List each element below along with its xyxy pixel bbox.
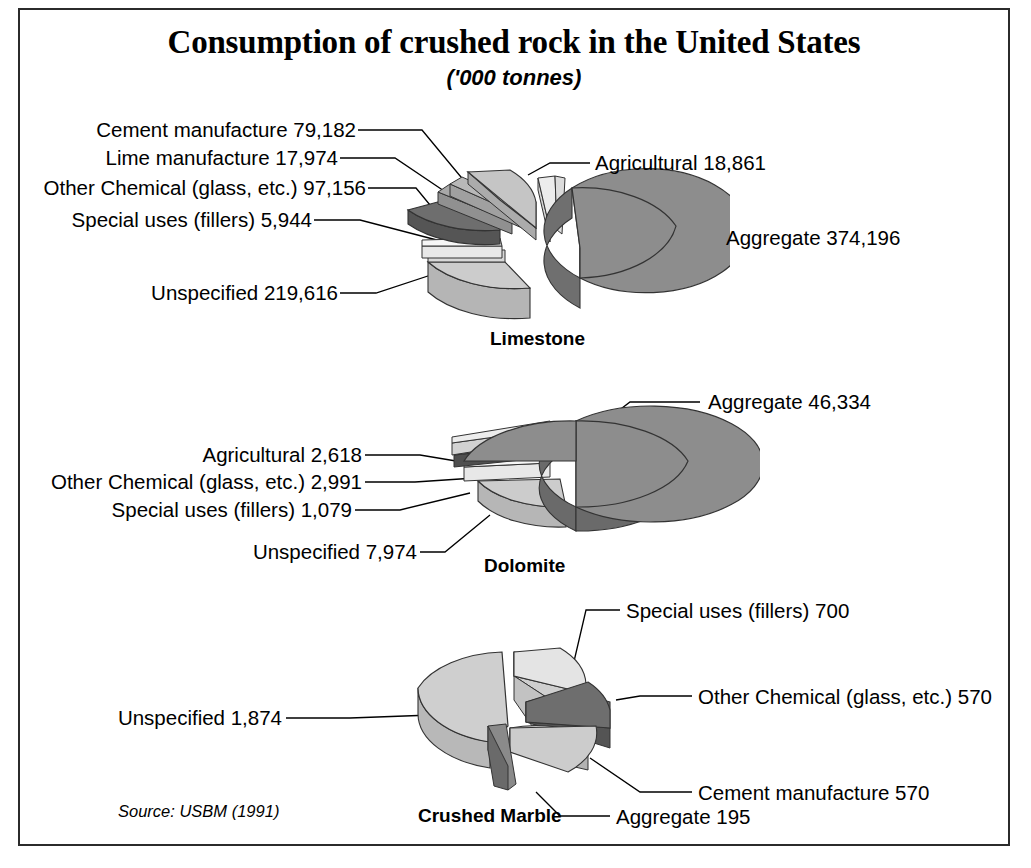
label-limestone-lime: Lime manufacture 17,974 <box>20 146 338 170</box>
label-dolomite-aggregate: Aggregate 46,334 <box>708 390 871 414</box>
chart-title: Consumption of crushed rock in the Unite… <box>20 24 1008 61</box>
label-limestone-agricultural: Agricultural 18,861 <box>595 151 766 175</box>
chart-figure-frame: Consumption of crushed rock in the Unite… <box>18 8 1010 846</box>
label-dolomite-unspecified: Unspecified 7,974 <box>20 540 417 564</box>
slice-limestone-unspecified <box>428 250 530 319</box>
label-dolomite-other-chemical: Other Chemical (glass, etc.) 2,991 <box>20 470 362 494</box>
label-limestone-aggregate: Aggregate 374,196 <box>726 226 900 250</box>
label-marble-unspecified: Unspecified 1,874 <box>20 706 282 730</box>
label-dolomite-agricultural: Agricultural 2,618 <box>20 443 362 467</box>
label-limestone-unspecified: Unspecified 219,616 <box>20 281 338 305</box>
crushed-marble-pie <box>410 630 670 830</box>
limestone-pie <box>350 150 680 350</box>
label-dolomite-special-uses: Special uses (fillers) 1,079 <box>20 498 352 522</box>
slice-limestone-aggregate <box>544 169 748 308</box>
label-marble-other-chemical: Other Chemical (glass, etc.) 570 <box>698 685 992 709</box>
limestone-pie-title: Limestone <box>490 328 585 350</box>
dolomite-pie <box>440 405 710 580</box>
label-limestone-other-chemical: Other Chemical (glass, etc.) 97,156 <box>20 176 366 200</box>
chart-subtitle: ('000 tonnes) <box>20 65 1008 91</box>
slice-marble-cement <box>510 725 597 772</box>
label-marble-cement: Cement manufacture 570 <box>698 781 929 805</box>
dolomite-pie-title: Dolomite <box>484 555 565 577</box>
label-limestone-cement: Cement manufacture 79,182 <box>20 118 356 142</box>
label-marble-special-uses: Special uses (fillers) 700 <box>626 599 849 623</box>
crushed-marble-pie-title: Crushed Marble <box>418 805 562 827</box>
label-marble-aggregate: Aggregate 195 <box>616 805 751 829</box>
label-limestone-special-uses: Special uses (fillers) 5,944 <box>20 208 312 232</box>
source-note: Source: USBM (1991) <box>118 802 279 821</box>
